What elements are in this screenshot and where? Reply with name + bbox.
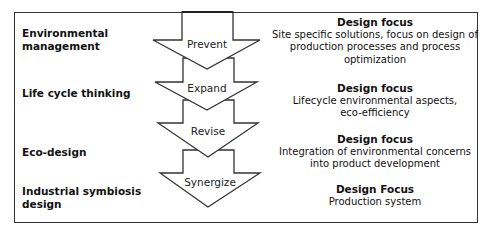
approach-line: Industrial symbiosis — [22, 185, 141, 198]
approach-line: Life cycle thinking — [22, 87, 130, 100]
design-focus-title: Design Focus — [262, 183, 488, 196]
approach-environmental-management: Environmental management — [22, 27, 108, 53]
approach-industrial-symbiosis-design: Industrial symbiosis design — [22, 185, 141, 211]
design-focus-title: Design focus — [262, 82, 488, 95]
arrow-label-revise: Revise — [168, 125, 248, 138]
design-focus-desc: into product development — [262, 158, 488, 171]
design-focus-desc: Site specific solutions, focus on design… — [262, 29, 488, 42]
design-focus-desc: Production system — [262, 196, 488, 209]
arrow-label-expand: Expand — [167, 82, 247, 95]
design-focus-desc: optimization — [262, 54, 488, 67]
design-focus-prevent: Design focus Site specific solutions, fo… — [262, 16, 488, 66]
design-focus-desc: production processes and process — [262, 41, 488, 54]
design-focus-expand: Design focus Lifecycle environmental asp… — [262, 82, 488, 120]
design-focus-desc: Integration of environmental concerns — [262, 146, 488, 159]
design-focus-synergize: Design Focus Production system — [262, 183, 488, 208]
design-focus-desc: Lifecycle environmental aspects, — [262, 95, 488, 108]
approach-line: management — [22, 40, 108, 53]
design-focus-revise: Design focus Integration of environmenta… — [262, 133, 488, 171]
approach-life-cycle-thinking: Life cycle thinking — [22, 87, 130, 100]
arrow-label-prevent: Prevent — [167, 38, 247, 51]
approach-eco-design: Eco-design — [22, 146, 86, 159]
design-focus-desc: eco-efficiency — [262, 107, 488, 120]
approach-line: design — [22, 198, 141, 211]
approach-line: Environmental — [22, 27, 108, 40]
design-focus-title: Design focus — [262, 16, 488, 29]
approach-line: Eco-design — [22, 146, 86, 159]
design-focus-title: Design focus — [262, 133, 488, 146]
arrow-label-synergize: Synergize — [170, 176, 250, 189]
